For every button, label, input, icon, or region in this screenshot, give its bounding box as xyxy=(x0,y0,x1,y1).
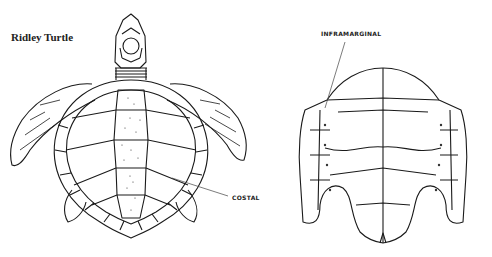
turtle-illustrations xyxy=(0,0,492,257)
carapace-drawing xyxy=(10,14,246,238)
label-inframarginal: INFRAMARGINAL xyxy=(321,30,381,37)
inframarginal-leader-line xyxy=(325,42,345,108)
turtle-diagram: Ridley Turtle xyxy=(0,0,492,257)
label-costal: COSTAL xyxy=(232,194,260,201)
costal-leader-line xyxy=(172,178,228,196)
stippling xyxy=(121,97,140,210)
plastron-drawing xyxy=(299,68,467,243)
